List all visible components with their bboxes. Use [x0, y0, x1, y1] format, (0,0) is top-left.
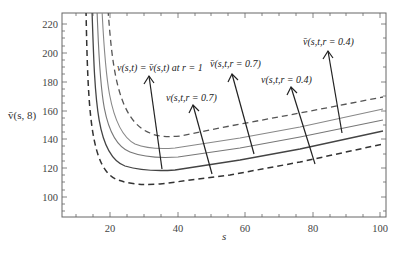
annotation-r1: v(s,t) = v̄(s,t) at r = 1 — [117, 62, 203, 74]
annotation-v-r07: v(s,t,r = 0.7) — [166, 92, 218, 104]
y-tick-label: 200 — [42, 48, 58, 59]
x-tick-label: 40 — [173, 223, 184, 234]
y-tick-label: 180 — [42, 77, 58, 88]
curve-v-r07 — [92, 10, 383, 171]
y-tick-label: 120 — [42, 163, 58, 174]
curve-r1 — [97, 10, 383, 157]
y-tick-label: 140 — [42, 134, 58, 145]
chart: 20 40 60 80 100 220 200 180 160 140 120 … — [0, 0, 399, 253]
x-tick-label: 80 — [308, 223, 319, 234]
y-tick-label: 160 — [42, 106, 58, 117]
annotation-v-r04: v(s,t,r = 0.4) — [261, 74, 313, 86]
y-axis-label: v̄(s, 8) — [8, 109, 36, 122]
y-tick-label: 220 — [42, 19, 58, 30]
x-tick-label: 100 — [372, 223, 388, 234]
y-ticks — [62, 24, 386, 211]
x-tick-label: 60 — [240, 223, 251, 234]
x-axis-label: s — [222, 230, 226, 242]
x-tick-label: 20 — [105, 223, 116, 234]
annotation-vbar-r04: v̄(s,t,r = 0.4) — [303, 36, 355, 48]
y-tick-label: 100 — [42, 192, 58, 203]
annotation-vbar-r07: v̄(s,t,r = 0.7) — [210, 58, 262, 70]
